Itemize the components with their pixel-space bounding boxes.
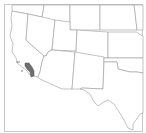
state-new-mexico <box>72 52 104 89</box>
state-nebraska <box>100 5 137 30</box>
state-kansas <box>108 32 143 58</box>
locator-map <box>0 0 146 133</box>
island-marker <box>21 70 23 72</box>
map-canvas <box>0 0 146 133</box>
state-wyoming <box>70 5 100 30</box>
